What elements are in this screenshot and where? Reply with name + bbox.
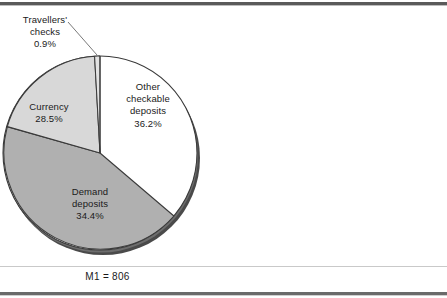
pie-chart: Travellers' checks 0.9% Other checkable … [0,6,447,264]
other-checkable-percent: 36.2% [100,118,196,130]
travellers-checks-name-line2: checks [2,26,88,38]
caption-separator-rule [0,266,447,267]
other-checkable-name-line1: Other [100,81,196,93]
slice-label-other-checkable-deposits: Other checkable deposits 36.2% [100,81,196,130]
demand-deposits-name-line2: deposits [42,198,138,210]
figure-panel: Travellers' checks 0.9% Other checkable … [0,0,447,298]
travellers-checks-percent: 0.9% [2,38,88,50]
currency-percent: 28.5% [4,113,94,125]
currency-name: Currency [4,101,94,113]
slice-label-currency: Currency 28.5% [4,101,94,125]
travellers-checks-name-line1: Travellers' [2,14,88,26]
other-checkable-name-line2: checkable [100,93,196,105]
demand-deposits-percent: 34.4% [42,210,138,222]
bottom-rule-hairline [0,295,447,296]
slice-label-travellers-checks: Travellers' checks 0.9% [2,14,88,51]
demand-deposits-name-line1: Demand [42,186,138,198]
other-checkable-name-line3: deposits [100,105,196,117]
figure-caption: M1 = 806 [0,271,215,282]
slice-label-demand-deposits: Demand deposits 34.4% [42,186,138,223]
